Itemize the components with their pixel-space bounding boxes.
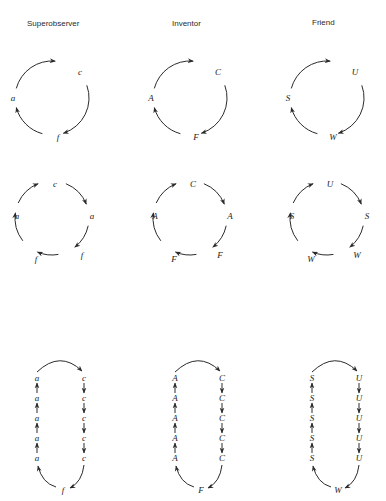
cycle5-arrow	[38, 252, 59, 255]
cycle5-arrow	[350, 226, 363, 248]
loop-left-label: S	[310, 393, 315, 403]
loop-right-label: C	[219, 433, 226, 443]
loop-left-label: A	[171, 453, 178, 463]
cycle5-arrow	[156, 184, 176, 203]
cycle3-arrow	[291, 61, 330, 88]
node-label: a	[11, 93, 16, 103]
cycle5-arrow	[293, 184, 313, 203]
loop-top-arrow	[312, 361, 357, 372]
cycle3-arrow	[16, 61, 55, 88]
loop-top-arrow	[175, 361, 220, 372]
node-label: A	[151, 211, 158, 221]
cycle3-arrow	[201, 85, 227, 133]
node-label: S	[286, 93, 291, 103]
node-label: U	[327, 179, 334, 189]
loop-left-label: A	[171, 373, 178, 383]
loop-right-label: c	[82, 393, 86, 403]
loop-left-label: A	[171, 413, 178, 423]
loop-bottom-right-arrow	[345, 465, 359, 488]
node-label: C	[190, 179, 197, 189]
node-label: f	[35, 254, 39, 264]
loop-left-label: a	[35, 393, 40, 403]
cycle3-arrow	[16, 108, 42, 134]
loop-right-label: U	[356, 393, 363, 403]
node-label: F	[170, 254, 177, 264]
node-label: C	[215, 67, 222, 77]
node-label: W	[307, 254, 316, 264]
loop-left-label: a	[35, 453, 40, 463]
loop-left-label: S	[310, 413, 315, 423]
loop-right-label: c	[82, 433, 86, 443]
loop-right-label: U	[356, 373, 363, 383]
loop-bottom-label: F	[197, 485, 204, 495]
loop-left-label: a	[35, 413, 40, 423]
loop-bottom-left-arrow	[313, 466, 331, 487]
node-label: F	[216, 250, 223, 260]
node-label: W	[353, 250, 362, 260]
loop-right-label: c	[82, 373, 86, 383]
loop-bottom-label: W	[334, 485, 343, 495]
node-label: f	[81, 250, 85, 260]
node-label: c	[78, 67, 82, 77]
cycle5-arrow	[66, 184, 86, 204]
loop-bottom-left-arrow	[176, 466, 194, 487]
loop-bottom-right-arrow	[208, 465, 222, 488]
node-label: c	[53, 179, 57, 189]
loop-left-label: S	[310, 433, 315, 443]
loop-right-label: c	[82, 453, 86, 463]
loop-top-arrow	[37, 361, 82, 372]
loop-bottom-right-arrow	[70, 465, 84, 488]
cycle5-arrow	[75, 226, 88, 248]
loop-right-label: U	[356, 433, 363, 443]
node-label: S	[365, 211, 370, 221]
node-label: F	[192, 132, 199, 142]
cycle3-arrow	[154, 108, 180, 134]
loop-bottom-left-arrow	[38, 466, 56, 487]
loop-right-label: U	[356, 413, 363, 423]
loop-left-label: S	[310, 373, 315, 383]
node-label: U	[352, 67, 359, 77]
cycle5-arrow	[213, 226, 226, 248]
loop-right-label: C	[219, 373, 226, 383]
loop-left-label: A	[171, 393, 178, 403]
loop-right-label: C	[219, 393, 226, 403]
cycle3-arrow	[291, 108, 317, 134]
loop-right-label: c	[82, 413, 86, 423]
loop-left-label: a	[35, 373, 40, 383]
cycle5-arrow	[341, 184, 361, 204]
cycle5-arrow	[18, 184, 38, 203]
cycle3-arrow	[154, 61, 193, 88]
cycle3-arrow	[63, 85, 89, 133]
node-label: A	[226, 211, 233, 221]
loop-right-label: C	[219, 453, 226, 463]
loop-bottom-label: f	[62, 485, 66, 495]
node-label: a	[90, 211, 95, 221]
loop-right-label: C	[219, 413, 226, 423]
cycle5-arrow	[313, 252, 334, 255]
cycle5-arrow	[204, 184, 224, 204]
cycle3-arrow	[338, 85, 364, 133]
loop-left-label: S	[310, 453, 315, 463]
loop-right-label: U	[356, 453, 363, 463]
cycle-diagram-figure: cfacaffaacacacacacfCFACAFFAACACACACACFUW…	[0, 0, 386, 501]
loop-left-label: a	[35, 433, 40, 443]
cycle5-arrow	[176, 252, 197, 255]
node-label: A	[147, 93, 154, 103]
node-label: f	[57, 132, 61, 142]
loop-left-label: A	[171, 433, 178, 443]
node-label: W	[329, 132, 338, 142]
